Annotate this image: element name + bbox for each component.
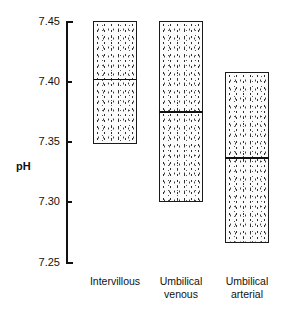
y-tick-label-7-45: 7.45 [20, 16, 60, 27]
category-label-umbilical-arterial-line1: Umbilical [226, 275, 269, 287]
median-intervillous [93, 79, 137, 81]
y-tick-7-40 [66, 81, 72, 83]
y-tick-7-45 [66, 21, 72, 23]
category-label-intervillous-line1: Intervillous [90, 275, 140, 287]
y-tick-label-7-35: 7.35 [20, 136, 60, 147]
y-tick-label-7-30: 7.30 [20, 196, 60, 207]
ph-box-chart: 7.45 7.40 7.35 7.30 7.25 pH Intervillous… [0, 0, 296, 313]
median-umbilical-arterial [225, 157, 269, 159]
y-tick-7-25 [66, 262, 72, 264]
category-label-umbilical-arterial-line2: arterial [217, 288, 277, 301]
y-tick-label-7-40: 7.40 [20, 76, 60, 87]
category-label-intervillous: Intervillous [85, 275, 145, 288]
y-tick-7-35 [66, 141, 72, 143]
y-tick-7-30 [66, 201, 72, 203]
category-label-umbilical-arterial: Umbilical arterial [217, 275, 277, 300]
y-tick-label-7-25: 7.25 [20, 257, 60, 268]
category-label-umbilical-venous-line2: venous [151, 288, 211, 301]
category-label-umbilical-venous: Umbilical venous [151, 275, 211, 300]
category-label-umbilical-venous-line1: Umbilical [160, 275, 203, 287]
box-intervillous [93, 21, 137, 144]
median-umbilical-venous [159, 111, 203, 113]
y-axis-title: pH [16, 161, 31, 172]
